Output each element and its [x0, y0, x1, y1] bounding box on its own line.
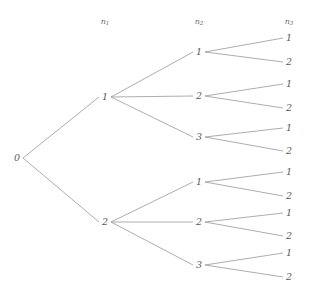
tree-edge — [205, 137, 283, 151]
tree-node-n1a: 1 — [102, 91, 108, 102]
tree-edge — [111, 97, 193, 137]
column-header-h2: n2 — [195, 17, 204, 27]
tree-node-n1b: 2 — [101, 216, 108, 227]
tree-node-n2b2: 2 — [195, 216, 202, 227]
tree-node-n2b1: 1 — [196, 176, 202, 187]
tree-node-l1: 1 — [286, 32, 292, 43]
tree-node-l5: 1 — [286, 122, 292, 133]
tree-edge — [111, 96, 193, 97]
tree-edge — [205, 84, 283, 96]
tree-node-l2: 2 — [285, 56, 292, 67]
edges-group — [23, 38, 283, 277]
tree-node-l11: 1 — [286, 247, 292, 258]
tree-edge — [205, 38, 283, 52]
tree-edge — [23, 158, 99, 222]
tree-node-l10: 2 — [285, 230, 292, 241]
tree-node-n2a2: 2 — [195, 90, 202, 101]
tree-diagram-canvas: 012123123121212121212 n1n2n3 — [0, 0, 310, 291]
tree-node-l8: 2 — [285, 190, 292, 201]
column-header-subscript: 1 — [106, 21, 110, 27]
tree-edge — [205, 213, 283, 222]
tree-node-root: 0 — [14, 152, 20, 163]
tree-edge — [205, 96, 283, 108]
tree-node-l6: 2 — [285, 145, 292, 156]
tree-edge — [205, 52, 283, 62]
tree-node-l3: 1 — [286, 78, 292, 89]
tree-node-l12: 2 — [285, 271, 292, 282]
tree-node-l9: 1 — [286, 207, 292, 218]
tree-node-n2b3: 3 — [196, 259, 202, 270]
tree-edge — [111, 52, 193, 97]
tree-node-n2a1: 1 — [196, 46, 202, 57]
tree-edge — [205, 222, 283, 236]
tree-edge — [111, 182, 193, 222]
tree-edge — [205, 265, 283, 277]
tree-edge — [205, 128, 283, 137]
column-header-subscript: 2 — [199, 21, 204, 27]
column-header-h3: n3 — [285, 17, 294, 27]
column-headers-group: n1n2n3 — [101, 17, 294, 27]
tree-edge — [205, 182, 283, 196]
tree-edge — [205, 172, 283, 182]
tree-node-n2a3: 3 — [196, 131, 202, 142]
tree-node-l7: 1 — [286, 166, 292, 177]
tree-edge — [111, 222, 193, 265]
tree-diagram: 012123123121212121212 n1n2n3 — [0, 0, 310, 291]
tree-edge — [205, 253, 283, 265]
tree-edge — [23, 97, 99, 158]
tree-node-l4: 2 — [285, 102, 292, 113]
column-header-subscript: 3 — [290, 21, 294, 27]
column-header-h1: n1 — [101, 17, 110, 27]
